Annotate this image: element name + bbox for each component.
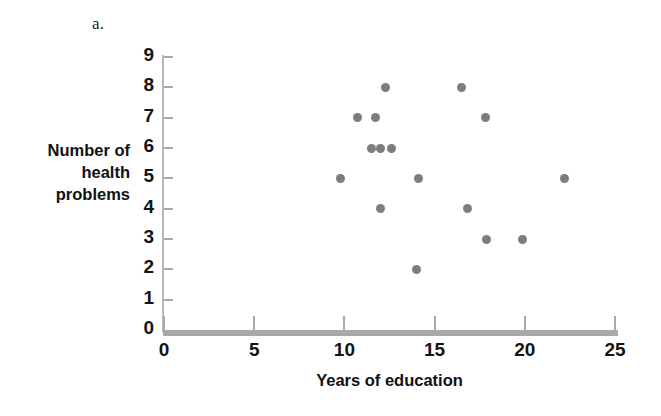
y-axis-title: Number ofhealthproblems xyxy=(10,140,130,206)
data-point xyxy=(457,83,466,92)
y-axis-tick-label: 3 xyxy=(124,226,154,248)
data-point xyxy=(414,174,423,183)
plot-area xyxy=(164,57,615,330)
data-point xyxy=(518,235,527,244)
data-point xyxy=(376,204,385,213)
data-point xyxy=(560,174,569,183)
panel-letter: a. xyxy=(92,14,104,34)
data-point xyxy=(412,265,421,274)
x-axis-tick-label: 20 xyxy=(505,339,545,361)
data-point xyxy=(481,113,490,122)
y-axis-tick-label: 9 xyxy=(124,44,154,66)
x-axis-tick-label: 5 xyxy=(234,339,274,361)
data-point xyxy=(482,235,491,244)
data-point xyxy=(376,144,385,153)
x-axis-tick-label: 25 xyxy=(595,339,635,361)
x-axis-tick-label: 0 xyxy=(144,339,184,361)
y-axis-tick-label: 0 xyxy=(124,317,154,339)
y-axis-title-line: problems xyxy=(10,184,130,206)
x-axis-tick-label: 15 xyxy=(415,339,455,361)
y-axis-tick-label: 7 xyxy=(124,105,154,127)
data-point xyxy=(463,204,472,213)
y-axis-title-line: Number of xyxy=(10,140,130,162)
y-axis-title-line: health xyxy=(10,162,130,184)
x-axis-tick-label: 10 xyxy=(324,339,364,361)
scatter-plot-figure: a. 0123456789 0510152025 Number ofhealth… xyxy=(0,0,661,416)
x-axis-title: Years of education xyxy=(164,371,615,390)
y-axis-tick-label: 1 xyxy=(124,287,154,309)
data-point xyxy=(367,144,376,153)
y-axis-tick-label: 2 xyxy=(124,256,154,278)
data-point xyxy=(381,83,390,92)
x-axis-line xyxy=(163,330,618,336)
data-point xyxy=(353,113,362,122)
data-point xyxy=(387,144,396,153)
y-axis-tick-label: 8 xyxy=(124,74,154,96)
data-point xyxy=(371,113,380,122)
data-point xyxy=(336,174,345,183)
